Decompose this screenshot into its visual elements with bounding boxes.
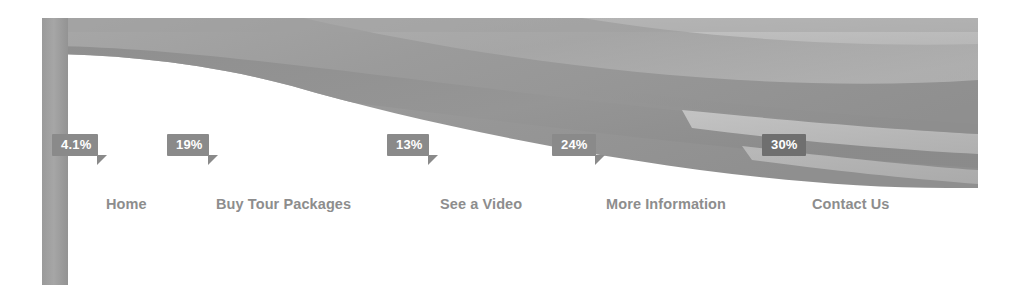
nav-item-contact-us[interactable]: Contact Us [812,196,890,212]
badge-tail-icon [428,155,438,165]
site-navigation: Home Buy Tour Packages See a Video More … [68,196,968,226]
hero-banner [42,18,978,188]
badge-value: 13% [396,137,423,152]
click-percent-badge[interactable]: 24% [552,134,596,156]
badge-value: 24% [561,137,588,152]
badge-value: 4.1% [61,137,91,152]
badge-value: 19% [176,137,203,152]
badge-tail-icon [595,155,605,165]
badge-tail-icon [97,155,107,165]
nav-item-home[interactable]: Home [106,196,147,212]
click-percent-badge[interactable]: 19% [167,134,209,156]
hero-banner-graphic [42,18,978,188]
nav-item-more-information[interactable]: More Information [606,196,726,212]
click-percent-badge[interactable]: 30% [762,134,806,156]
nav-item-see-a-video[interactable]: See a Video [440,196,522,212]
click-percent-badge[interactable]: 13% [387,134,429,156]
badge-value: 30% [771,137,798,152]
nav-item-buy-tour-packages[interactable]: Buy Tour Packages [216,196,351,212]
click-percent-badge[interactable]: 4.1% [52,134,98,156]
analytics-overlay-page: 4.1% 19% 13% 24% 30% Home Buy Tour Packa… [0,0,1024,291]
badge-tail-icon [208,155,218,165]
